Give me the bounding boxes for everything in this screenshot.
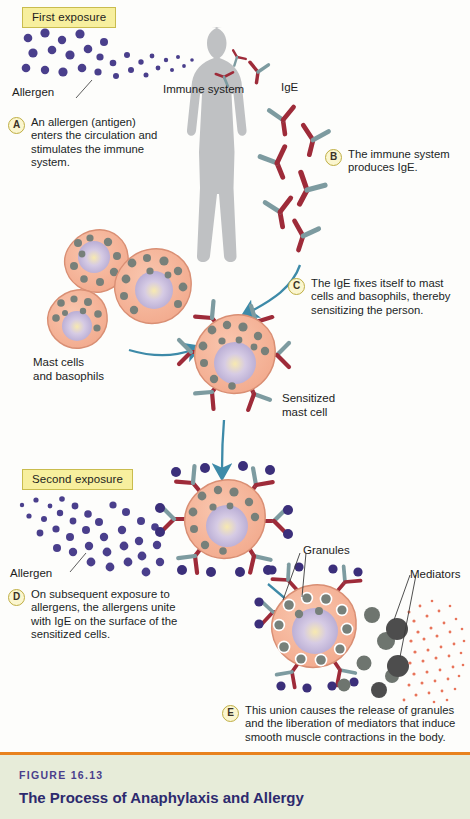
allergen-dots-second-exposure — [20, 496, 164, 576]
label-sensitized-line1: Sensitized — [282, 392, 335, 406]
label-granules: Granules — [303, 544, 350, 557]
badge-second-exposure: Second exposure — [22, 469, 133, 490]
step-e-marker: E — [222, 705, 239, 722]
mediator-dots — [403, 600, 466, 704]
label-allergen-bottom: Allergen — [10, 567, 52, 580]
label-mast-cells: Mast cells and basophils — [33, 356, 104, 383]
step-b-text: The immune system produces IgE. — [348, 148, 460, 175]
step-a-marker: A — [8, 117, 25, 134]
step-a-text: An allergen (antigen) enters the circula… — [31, 116, 158, 170]
label-mediators: Mediators — [410, 568, 461, 581]
step-c-marker: C — [288, 278, 305, 295]
step-d-text: On subsequent exposure to allergens, the… — [31, 588, 186, 642]
label-immune-system: Immune system — [163, 83, 244, 96]
degranulating-mast-cell — [254, 562, 399, 692]
arrow-sensitized-to-second-exposure — [222, 420, 224, 470]
step-a: A An allergen (antigen) enters the circu… — [8, 116, 158, 170]
label-sensitized-mast-cell: Sensitized mast cell — [282, 392, 335, 419]
figure-canvas: First exposure Allergen Immune system Ig… — [0, 0, 470, 819]
allergen-bound-mast-cell — [155, 461, 293, 577]
step-e: E This union causes the release of granu… — [222, 704, 464, 744]
sensitized-mast-cell — [179, 301, 289, 410]
label-mast-cells-line1: Mast cells — [33, 356, 104, 370]
allergen-dots-first-exposure — [22, 28, 194, 79]
label-mast-cells-line2: and basophils — [33, 370, 104, 384]
label-allergen-top: Allergen — [12, 86, 54, 99]
figure-title: The Process of Anaphylaxis and Allergy — [19, 789, 304, 806]
step-c: C The IgE fixes itself to mast cells and… — [288, 277, 460, 317]
label-ige: IgE — [281, 81, 298, 94]
step-b-marker: B — [325, 149, 342, 166]
allergen-leader-line-top — [76, 80, 92, 98]
figure-caption-band: FIGURE 16.13 The Process of Anaphylaxis … — [0, 752, 470, 819]
step-d: D On subsequent exposure to allergens, t… — [8, 588, 186, 642]
human-silhouette-icon — [187, 27, 247, 262]
step-e-text: This union causes the release of granule… — [245, 704, 464, 744]
mast-cell-cluster — [48, 230, 192, 348]
arrow-mastcells-to-sensitized — [129, 350, 192, 355]
mediators-leader-lines — [394, 575, 416, 657]
step-b: B The immune system produces IgE. — [325, 148, 460, 175]
figure-number: FIGURE 16.13 — [19, 769, 103, 781]
label-sensitized-line2: mast cell — [282, 406, 335, 420]
step-c-text: The IgE fixes itself to mast cells and b… — [311, 277, 460, 317]
step-d-marker: D — [8, 589, 25, 606]
badge-first-exposure: First exposure — [22, 7, 116, 28]
